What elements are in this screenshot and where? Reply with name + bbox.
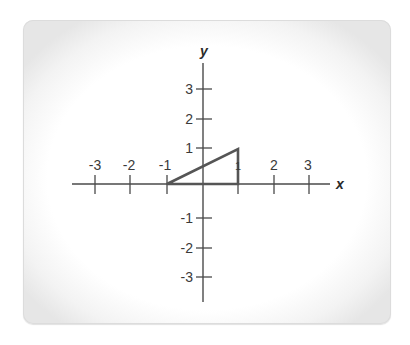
x-tick-label: 1 bbox=[235, 160, 241, 172]
coordinate-plane: -3 -2 -1 1 2 3 3 2 1 -1 -2 -3 y x bbox=[0, 0, 410, 345]
y-tick-label: 3 bbox=[185, 81, 193, 97]
y-tick-label: -1 bbox=[181, 210, 194, 226]
y-axis-label: y bbox=[199, 43, 209, 59]
x-tick-label: 2 bbox=[270, 157, 278, 173]
x-tick-label: -1 bbox=[159, 157, 172, 173]
y-tick-label: -3 bbox=[181, 269, 194, 285]
x-tick-label: -2 bbox=[123, 157, 136, 173]
x-axis-label: x bbox=[335, 176, 345, 192]
y-tick-label: 1 bbox=[185, 140, 193, 156]
y-tick-label: -2 bbox=[181, 240, 194, 256]
x-tick-label: 3 bbox=[304, 157, 312, 173]
x-tick-label: -3 bbox=[89, 157, 102, 173]
y-tick-label: 2 bbox=[185, 111, 193, 127]
